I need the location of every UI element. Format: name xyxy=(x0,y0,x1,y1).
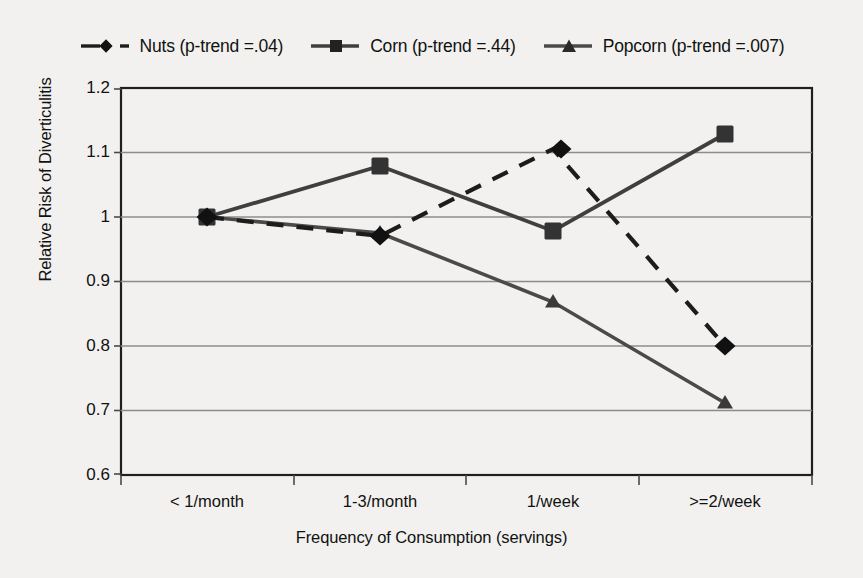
x-tick-lt-1-month: < 1/month xyxy=(170,492,244,511)
series-nuts-point-2 xyxy=(551,140,572,159)
series-corn-point-3 xyxy=(717,126,734,143)
x-axis-title: Frequency of Consumption (servings) xyxy=(0,528,863,547)
series-popcorn xyxy=(199,209,733,409)
x-tick-1-3-month: 1-3/month xyxy=(343,492,417,511)
series-corn-point-2 xyxy=(545,223,562,240)
x-axis-ticks xyxy=(121,475,812,485)
series-nuts-point-3 xyxy=(715,337,736,356)
series-nuts-point-1 xyxy=(370,227,391,246)
series-popcorn-line xyxy=(207,217,725,403)
plot-area-container: Relative Risk of Diverticulitis 1.2 1.1 … xyxy=(0,0,863,578)
x-tick-gte-2-week: >=2/week xyxy=(689,492,761,511)
chart-figure: Nuts (p-trend =.04) Corn (p-trend =.44) … xyxy=(0,0,863,578)
series-corn-point-1 xyxy=(372,158,389,175)
x-tick-1-week: 1/week xyxy=(527,492,579,511)
